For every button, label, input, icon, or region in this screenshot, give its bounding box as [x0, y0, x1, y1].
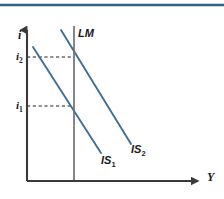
is1-curve-label-base: IS — [101, 154, 111, 166]
is1-curve-label-subscript: 1 — [111, 160, 115, 169]
y-axis-label: i — [18, 29, 21, 41]
is2-curve — [61, 30, 131, 144]
tick-label-i1: i1 — [16, 100, 23, 114]
tick-label-i2-subscript: 2 — [19, 56, 23, 65]
tick-label-i1-subscript: 1 — [19, 105, 23, 114]
tick-label-i2: i2 — [16, 51, 23, 65]
is2-curve-label: IS2 — [131, 144, 146, 158]
is1-curve-label: IS1 — [101, 155, 116, 169]
is2-curve-label-subscript: 2 — [141, 149, 145, 158]
is1-curve — [33, 47, 101, 153]
x-axis-label: Y — [207, 171, 214, 183]
is-lm-diagram: i Y i2 i1 LM IS1 IS2 — [0, 0, 224, 199]
lm-curve-label: LM — [78, 28, 94, 39]
is2-curve-label-base: IS — [131, 143, 141, 155]
